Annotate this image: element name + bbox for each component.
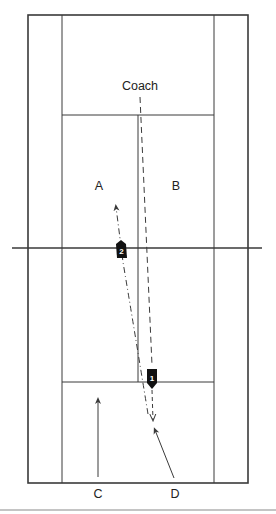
label-coach: Coach: [122, 79, 158, 93]
coach-feed-path: [140, 97, 152, 365]
marker-2: 2: [116, 240, 127, 258]
label-d: D: [170, 487, 179, 501]
marker-1-continuation: [152, 390, 153, 420]
drill-paths: [98, 97, 174, 478]
player-2-path: [116, 207, 148, 414]
marker-1: 1: [147, 369, 157, 389]
label-b: B: [172, 179, 180, 193]
marker-1-label: 1: [150, 374, 155, 383]
label-c: C: [93, 487, 102, 501]
label-a: A: [95, 179, 104, 193]
player-d-path: [155, 430, 174, 478]
marker-2-label: 2: [119, 247, 124, 256]
tennis-court-diagram: 1 2 Coach A B C D: [0, 0, 276, 514]
